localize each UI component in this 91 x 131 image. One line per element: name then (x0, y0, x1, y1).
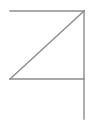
canvas-background (0, 0, 91, 131)
figure-canvas (0, 0, 91, 131)
